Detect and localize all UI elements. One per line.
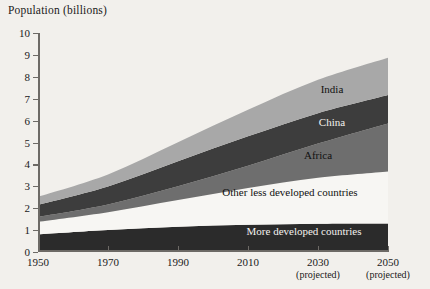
y-tick-mark	[33, 33, 38, 34]
y-tick-label: 7	[25, 93, 31, 105]
x-tick-sublabel: (projected)	[366, 269, 410, 280]
x-tick-label: 1950	[27, 256, 49, 268]
y-tick-label: 2	[25, 202, 31, 214]
page-title: Population (billions)	[8, 4, 107, 16]
y-tick-mark	[33, 252, 38, 253]
y-tick-mark	[33, 164, 38, 165]
y-tick-mark	[33, 99, 38, 100]
x-axis-line	[38, 250, 388, 253]
stacked-area-svg	[38, 33, 388, 252]
plot-area: 012345678910 19501970199020102030(projec…	[38, 33, 388, 252]
x-tick-mark	[108, 246, 109, 252]
x-tick-label: 1970	[97, 256, 119, 268]
y-axis-line	[38, 33, 40, 252]
y-tick-label: 9	[25, 49, 31, 61]
y-tick-mark	[33, 55, 38, 56]
y-tick-mark	[33, 121, 38, 122]
y-tick-label: 8	[25, 71, 31, 83]
chart-figure: Population (billions) 012345678910 19501…	[0, 0, 430, 289]
x-tick-label: 1990	[167, 256, 189, 268]
x-tick-label: 2030	[307, 256, 329, 268]
y-tick-mark	[33, 186, 38, 187]
x-tick-mark	[388, 246, 389, 252]
y-tick-label: 6	[25, 115, 31, 127]
y-tick-label: 3	[25, 180, 31, 192]
y-tick-label: 4	[25, 158, 31, 170]
y-tick-label: 5	[25, 137, 31, 149]
x-tick-sublabel: (projected)	[296, 269, 340, 280]
y-tick-mark	[33, 230, 38, 231]
y-tick-mark	[33, 77, 38, 78]
x-tick-mark	[318, 246, 319, 252]
x-tick-mark	[248, 246, 249, 252]
x-tick-label: 2010	[237, 256, 259, 268]
y-tick-label: 1	[25, 224, 31, 236]
y-tick-mark	[33, 143, 38, 144]
x-tick-mark	[178, 246, 179, 252]
y-tick-mark	[33, 208, 38, 209]
x-tick-mark	[38, 246, 39, 252]
y-tick-label: 10	[19, 27, 30, 39]
x-tick-label: 2050	[377, 256, 399, 268]
